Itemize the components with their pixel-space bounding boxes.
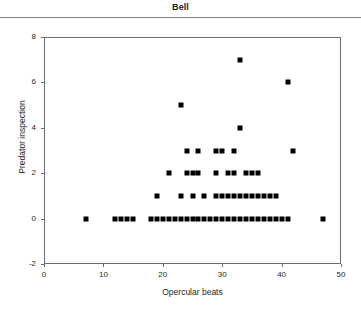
title-divider — [0, 17, 361, 18]
x-tick-label: 0 — [29, 270, 59, 279]
y-tick-mark — [41, 82, 44, 83]
plot-frame — [44, 37, 341, 264]
x-tick-mark — [103, 264, 104, 267]
x-tick-mark — [163, 264, 164, 267]
y-tick-label: 0 — [10, 214, 36, 223]
y-tick-mark — [41, 37, 44, 38]
chart-title: Bell — [0, 2, 361, 12]
y-tick-label: 8 — [10, 32, 36, 41]
x-tick-label: 10 — [88, 270, 118, 279]
y-tick-mark — [41, 128, 44, 129]
x-tick-label: 20 — [148, 270, 178, 279]
x-tick-mark — [282, 264, 283, 267]
x-tick-label: 50 — [326, 270, 356, 279]
scatter-plot-figure: Bell -20246801020304050 Predator inspect… — [0, 0, 361, 313]
y-axis-label: Predator inspection — [17, 67, 27, 207]
x-tick-label: 40 — [267, 270, 297, 279]
x-tick-mark — [222, 264, 223, 267]
x-axis-label: Opercular beats — [44, 287, 341, 297]
y-tick-mark — [41, 219, 44, 220]
x-tick-mark — [44, 264, 45, 267]
y-tick-mark — [41, 173, 44, 174]
x-tick-label: 30 — [207, 270, 237, 279]
y-tick-label: -2 — [10, 259, 36, 268]
x-tick-mark — [341, 264, 342, 267]
